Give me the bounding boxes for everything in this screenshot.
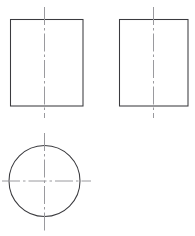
technical-drawing-canvas xyxy=(0,0,195,236)
orthographic-projection-svg xyxy=(0,0,195,236)
side-view-group xyxy=(120,7,189,118)
front-view-rectangle xyxy=(11,20,84,107)
top-view-group xyxy=(2,133,91,231)
front-view-group xyxy=(11,7,84,118)
